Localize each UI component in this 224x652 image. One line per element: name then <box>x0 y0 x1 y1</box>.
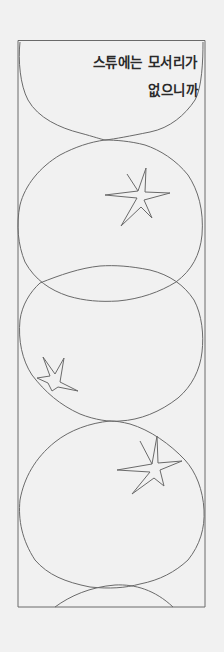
bowl-shape-2 <box>18 140 202 301</box>
caption-line-2: 없으니까 <box>93 76 198 104</box>
bowl-shape-3 <box>20 266 203 422</box>
comic-panel: 스튜에는 모서리가 없으니까 <box>0 0 224 652</box>
star-icon <box>37 357 78 391</box>
bowl-shape-4 <box>20 421 205 588</box>
caption-box: 스튜에는 모서리가 없으니까 <box>93 48 198 104</box>
caption-line-1: 스튜에는 모서리가 <box>93 48 198 76</box>
panel-frame <box>18 41 205 608</box>
star-icon <box>105 168 170 226</box>
star-icon <box>117 436 182 494</box>
